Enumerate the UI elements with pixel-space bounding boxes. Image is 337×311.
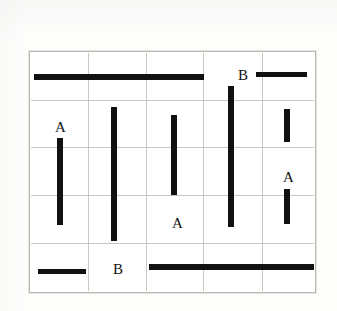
grid-line-horizontal-1: [31, 100, 314, 101]
grid-line-vertical-2: [146, 53, 147, 291]
segment-v-col5-bottom: [284, 189, 290, 224]
segment-h-row1-long: [34, 74, 204, 80]
segment-v-col5-top: [284, 109, 290, 142]
segment-v-col4: [228, 86, 234, 227]
cell-label-a-r2c1: A: [55, 120, 66, 135]
grid-line-horizontal-3: [31, 195, 314, 196]
cell-label-a-r3c5: A: [283, 170, 294, 185]
segment-v-col2: [111, 107, 117, 241]
grid-line-vertical-1: [88, 53, 89, 291]
cell-label-a-r4c3: A: [172, 216, 183, 231]
segment-v-col3: [171, 115, 177, 195]
grid-frame: A B A A B: [29, 51, 316, 293]
segment-h-row5-long: [149, 264, 314, 270]
grid-inner: A B A A B: [31, 53, 314, 291]
cell-label-b-r1c4: B: [238, 68, 248, 83]
segment-h-row1-short: [256, 72, 307, 77]
segment-v-col1: [57, 138, 63, 225]
segment-h-row5-short: [38, 269, 86, 274]
grid-line-vertical-3: [203, 53, 204, 291]
figure-canvas: A = 2 B = 7: [0, 0, 337, 311]
grid-line-horizontal-4: [31, 243, 314, 244]
grid-line-vertical-4: [262, 53, 263, 291]
cell-label-b-r5c2: B: [113, 262, 123, 277]
